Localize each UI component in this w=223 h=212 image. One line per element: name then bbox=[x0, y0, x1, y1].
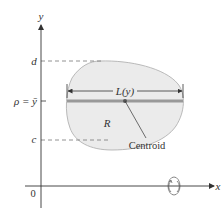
y-axis-label: y bbox=[38, 10, 44, 22]
length-label: L(y) bbox=[115, 85, 135, 98]
centroid-diagram: L(y) Centroid R y x 0 d ρ = ȳ c bbox=[0, 0, 223, 212]
rho-label: ρ = ȳ bbox=[13, 95, 38, 107]
region-r bbox=[66, 61, 183, 150]
x-axis-label: x bbox=[215, 180, 221, 192]
d-label: d bbox=[31, 55, 37, 67]
centroid-label: Centroid bbox=[129, 140, 166, 151]
region-label: R bbox=[103, 117, 111, 129]
origin-label: 0 bbox=[30, 188, 35, 199]
c-label: c bbox=[32, 133, 37, 145]
